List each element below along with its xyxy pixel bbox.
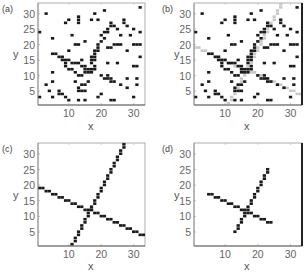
data-cell — [253, 18, 256, 21]
data-cell — [237, 227, 240, 230]
panel-c: 10203051015202530 — [23, 143, 145, 260]
data-cell — [126, 227, 129, 230]
data-cell — [106, 177, 109, 180]
data-cell — [292, 77, 295, 80]
panel-b: 10203051015202530 — [179, 3, 303, 119]
data-cell — [256, 93, 259, 96]
data-cell — [100, 74, 103, 77]
data-cell — [132, 28, 135, 31]
data-cell — [266, 168, 269, 171]
data-cell — [201, 49, 204, 52]
data-cell — [93, 199, 96, 202]
data-cell — [113, 43, 116, 46]
data-cell — [276, 83, 279, 86]
data-cell — [295, 56, 298, 59]
data-cell — [74, 71, 77, 74]
data-cell — [227, 68, 230, 71]
data-cell — [259, 77, 262, 80]
data-cell — [250, 212, 253, 215]
data-cell — [83, 71, 86, 74]
data-cell — [217, 196, 220, 199]
data-cell — [51, 37, 54, 40]
data-cell — [122, 143, 125, 146]
data-cell — [279, 83, 282, 86]
data-cell — [263, 37, 266, 40]
data-cell — [253, 49, 256, 52]
data-cell — [51, 71, 54, 74]
data-cell — [250, 52, 253, 55]
data-cell — [292, 43, 295, 46]
data-cell — [83, 83, 86, 86]
data-cell — [74, 240, 77, 243]
data-cell — [269, 221, 272, 224]
data-cell — [269, 25, 272, 28]
data-cell — [129, 34, 132, 37]
data-cell — [289, 90, 292, 93]
y-tick-label: 25 — [179, 164, 191, 176]
x-tick-label: 30 — [285, 107, 297, 119]
y-tick-label: 30 — [23, 8, 35, 20]
data-cell — [93, 52, 96, 55]
data-cell — [250, 199, 253, 202]
data-cell — [253, 215, 256, 218]
y-tick-label: 5 — [185, 85, 191, 97]
data-cell — [240, 209, 243, 212]
data-cell — [253, 43, 256, 46]
data-cell — [233, 90, 236, 93]
data-cell — [44, 83, 47, 86]
data-cell — [41, 187, 44, 190]
data-cell — [259, 180, 262, 183]
data-cell — [100, 190, 103, 193]
data-cell — [246, 68, 249, 71]
data-cell — [210, 193, 213, 196]
data-cell — [96, 96, 99, 99]
y-tick-label: 30 — [179, 8, 191, 20]
data-cell — [67, 99, 70, 102]
data-cell — [106, 174, 109, 177]
data-cell — [106, 46, 109, 49]
data-cell — [286, 86, 289, 89]
data-cell — [74, 202, 77, 205]
data-cell — [54, 193, 57, 196]
x-tick-label: 30 — [128, 248, 140, 260]
data-cell — [116, 43, 119, 46]
data-cell — [214, 56, 217, 59]
data-cell — [201, 83, 204, 86]
data-cell — [256, 187, 259, 190]
data-cell — [227, 62, 230, 65]
data-cell — [295, 43, 298, 46]
data-cell — [90, 56, 93, 59]
data-cell — [142, 234, 145, 237]
x-tick-label: 20 — [95, 107, 107, 119]
data-cell — [96, 49, 99, 52]
data-cell — [83, 209, 86, 212]
data-cell — [269, 99, 272, 102]
data-cell — [240, 90, 243, 93]
data-cell — [61, 59, 64, 62]
data-cell — [246, 212, 249, 215]
data-cell — [113, 221, 116, 224]
data-cell — [96, 43, 99, 46]
data-cell — [246, 62, 249, 65]
data-cell — [223, 59, 226, 62]
data-cell — [240, 65, 243, 68]
data-cell — [119, 43, 122, 46]
data-cell — [237, 86, 240, 89]
data-cell — [289, 43, 292, 46]
data-cell — [237, 65, 240, 68]
data-cell — [273, 80, 276, 83]
data-cell — [240, 218, 243, 221]
data-cell — [233, 86, 236, 89]
data-cell — [259, 9, 262, 12]
data-cell — [230, 71, 233, 74]
data-cell — [57, 90, 60, 93]
data-cell — [253, 196, 256, 199]
data-cell — [263, 218, 266, 221]
data-cell — [194, 96, 197, 99]
data-cell — [135, 230, 138, 233]
data-cell — [100, 93, 103, 96]
data-cell — [273, 18, 276, 21]
data-cell — [135, 83, 138, 86]
data-cell — [282, 77, 285, 80]
data-cell — [77, 99, 80, 102]
